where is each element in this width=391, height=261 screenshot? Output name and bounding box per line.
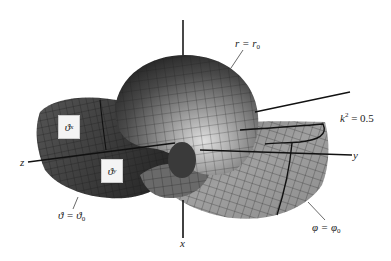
modulus-label: k2 = 0.5	[340, 112, 374, 124]
sphere-label: r = r0	[235, 38, 260, 51]
sphere-leader	[231, 50, 243, 68]
throat-surface	[168, 142, 196, 178]
cone-leader	[73, 197, 78, 209]
cone-label: ϑ = ϑ0	[58, 210, 85, 223]
theta-x-tag: ϑx	[58, 115, 80, 139]
y-axis-label: y	[353, 150, 358, 161]
x-axis-label: x	[180, 238, 185, 249]
plane-label: φ = φ0	[312, 222, 341, 235]
z-axis-label: z	[20, 157, 24, 168]
theta-y-tag: ϑy	[101, 159, 123, 183]
diag-axis	[255, 92, 350, 112]
plane-leader	[308, 202, 325, 220]
